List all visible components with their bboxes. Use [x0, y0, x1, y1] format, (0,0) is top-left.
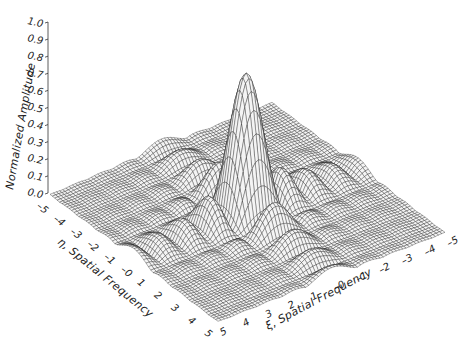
z-tick-label: 0.0: [27, 186, 45, 200]
xi-tick-label: –2: [377, 260, 392, 275]
eta-tick-label: 1: [136, 276, 148, 289]
eta-tick-label: –2: [85, 238, 101, 254]
eta-tick-label: –4: [52, 213, 68, 229]
z-tick-label: 0.2: [27, 152, 45, 166]
eta-tick-label: –5: [35, 200, 51, 216]
z-tick-label: 0.3: [27, 135, 45, 149]
eta-tick-label: 4: [186, 314, 198, 327]
z-tick-label: 0.1: [27, 169, 45, 183]
z-tick-label: 1.0: [27, 15, 45, 29]
eta-tick-label: 2: [152, 289, 164, 302]
surface-plot: 0.00.10.20.30.40.50.60.70.80.91.0 54321–…: [0, 0, 470, 341]
eta-tick-label: –0: [119, 264, 135, 280]
eta-tick-label: –1: [102, 251, 118, 267]
xi-tick-label: 5: [218, 325, 229, 338]
eta-tick-label: –3: [68, 225, 84, 241]
xi-tick-label: 4: [240, 316, 251, 329]
xi-tick-label: –3: [399, 252, 414, 267]
eta-tick-label: 3: [169, 302, 181, 315]
xi-tick-label: –5: [445, 234, 460, 249]
z-tick-label: 0.8: [27, 49, 45, 63]
z-tick-label: 0.4: [27, 118, 45, 132]
z-tick-label: 0.9: [27, 32, 45, 46]
xi-tick-label: –4: [422, 243, 437, 258]
eta-tick-label: 5: [203, 327, 215, 340]
